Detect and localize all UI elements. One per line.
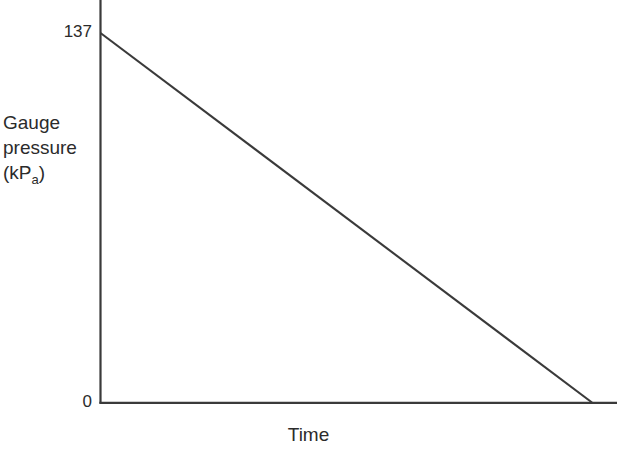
chart-figure: 137 0 Gauge pressure (kPa) Time	[0, 0, 617, 454]
y-axis-label-line-1: Gauge	[3, 110, 99, 135]
y-axis-unit-prefix: (kP	[3, 162, 32, 183]
y-axis-label: Gauge pressure (kPa)	[3, 110, 99, 185]
chart-plot-area	[0, 0, 617, 454]
data-series-line	[101, 33, 593, 403]
y-axis-label-line-2: pressure	[3, 135, 99, 160]
y-axis-unit-suffix: )	[39, 162, 45, 183]
y-axis-unit-subscript: a	[32, 172, 39, 187]
y-axis-tick-0: 0	[20, 392, 92, 412]
y-axis-tick-137: 137	[20, 22, 92, 42]
y-axis-label-unit: (kPa)	[3, 160, 99, 185]
x-axis-label: Time	[0, 424, 617, 446]
